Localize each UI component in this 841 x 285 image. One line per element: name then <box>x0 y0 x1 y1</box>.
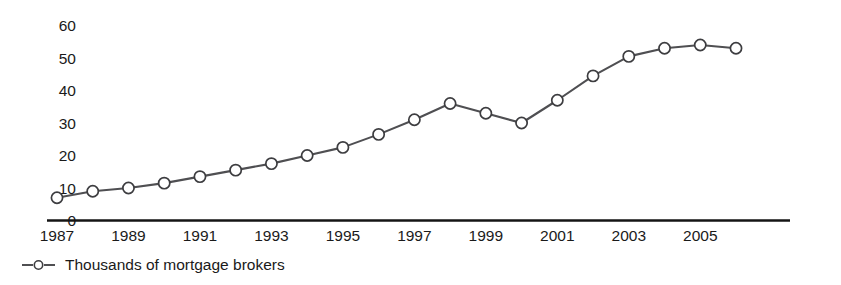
x-tick-label: 1989 <box>111 227 145 244</box>
x-tick-label: 1987 <box>40 227 74 244</box>
data-point-marker[interactable] <box>373 129 384 140</box>
line-chart: 0102030405060 19871989199119931995199719… <box>0 0 841 285</box>
y-tick-label: 40 <box>59 82 77 99</box>
data-point-marker[interactable] <box>730 43 741 54</box>
x-tick-label: 1991 <box>183 227 217 244</box>
data-point-marker[interactable] <box>194 171 205 182</box>
data-point-marker[interactable] <box>409 114 420 125</box>
x-tick-label: 1995 <box>326 227 360 244</box>
y-tick-label: 50 <box>59 50 77 67</box>
data-point-marker[interactable] <box>623 51 634 62</box>
data-point-marker[interactable] <box>695 39 706 50</box>
data-point-marker[interactable] <box>159 178 170 189</box>
x-tick-label: 1999 <box>469 227 503 244</box>
data-point-marker[interactable] <box>337 142 348 153</box>
data-point-marker[interactable] <box>266 158 277 169</box>
data-point-marker[interactable] <box>659 43 670 54</box>
data-point-marker[interactable] <box>51 192 62 203</box>
chart-figure: 0102030405060 19871989199119931995199719… <box>0 0 841 285</box>
data-point-marker[interactable] <box>230 165 241 176</box>
data-point-marker[interactable] <box>445 98 456 109</box>
x-tick-label: 2003 <box>612 227 646 244</box>
y-tick-label: 60 <box>59 17 77 34</box>
data-point-marker[interactable] <box>87 186 98 197</box>
data-point-marker[interactable] <box>480 108 491 119</box>
y-tick-label: 30 <box>59 115 77 132</box>
x-tick-label: 1997 <box>397 227 431 244</box>
y-tick-label: 20 <box>59 147 77 164</box>
data-point-marker[interactable] <box>587 70 598 81</box>
x-tick-label: 1993 <box>254 227 288 244</box>
x-tick-label: 2005 <box>683 227 717 244</box>
data-point-marker[interactable] <box>516 117 527 128</box>
x-tick-label: 2001 <box>540 227 574 244</box>
data-point-marker[interactable] <box>123 182 134 193</box>
legend-marker-icon <box>34 261 42 269</box>
legend-label: Thousands of mortgage brokers <box>65 256 285 273</box>
data-point-marker[interactable] <box>302 150 313 161</box>
data-point-marker[interactable] <box>552 95 563 106</box>
